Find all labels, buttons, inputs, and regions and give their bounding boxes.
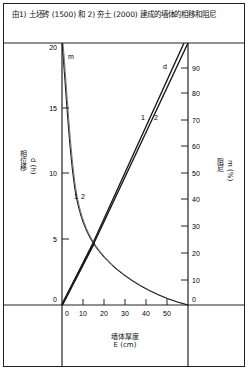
m-label: m xyxy=(68,53,74,60)
svg-text:10: 10 xyxy=(49,170,57,177)
svg-text:10: 10 xyxy=(79,310,87,317)
svg-text:10: 10 xyxy=(192,277,200,284)
chart-canvas: 20 15 10 5 0 90 80 70 60 50 40 30 20 10 … xyxy=(0,0,249,372)
m-curve-2-label: 2 xyxy=(81,193,85,200)
left-tick-labels: 20 15 10 5 0 xyxy=(49,44,57,303)
x-ticks xyxy=(83,299,167,305)
svg-text:80: 80 xyxy=(192,90,200,97)
svg-text:60: 60 xyxy=(192,143,200,150)
left-axis-title: 相位移 xyxy=(18,150,27,171)
svg-text:30: 30 xyxy=(192,223,200,230)
svg-text:30: 30 xyxy=(121,310,129,317)
svg-text:90: 90 xyxy=(192,65,200,72)
svg-text:0: 0 xyxy=(192,296,196,303)
d-line-1-label: 1 xyxy=(141,114,145,121)
svg-text:20: 20 xyxy=(100,310,108,317)
svg-text:20: 20 xyxy=(49,44,57,51)
right-axis-title: 阻尼 xyxy=(215,158,224,172)
svg-text:70: 70 xyxy=(192,117,200,124)
x-tick-labels: 0 10 20 30 40 50 xyxy=(65,310,171,317)
m-curve-1-label: 1 xyxy=(74,193,78,200)
d-line-2-label: 2 xyxy=(154,114,158,121)
left-axis-title-unit: d (h) xyxy=(28,158,37,175)
svg-text:50: 50 xyxy=(163,310,171,317)
left-axis-title-cn: 相位移 xyxy=(19,150,27,171)
svg-text:40: 40 xyxy=(142,310,150,317)
svg-text:0: 0 xyxy=(65,310,69,317)
right-axis-title-unit: m (%) xyxy=(225,160,234,181)
right-tick-labels: 90 80 70 60 50 40 30 20 10 0 xyxy=(192,65,200,303)
left-ticks xyxy=(62,108,69,239)
d-lines-overlap xyxy=(62,243,94,305)
svg-text:15: 15 xyxy=(49,105,57,112)
svg-text:20: 20 xyxy=(192,250,200,257)
svg-text:5: 5 xyxy=(53,236,57,243)
svg-text:40: 40 xyxy=(192,196,200,203)
svg-text:0: 0 xyxy=(53,296,57,303)
d-line-1 xyxy=(62,43,184,305)
svg-text:50: 50 xyxy=(192,170,200,177)
x-axis-title: 墙体厚度 xyxy=(95,331,155,341)
right-ticks xyxy=(181,68,188,280)
d-label: d xyxy=(163,63,167,70)
curve-annotations: m d 1 2 1 2 xyxy=(68,53,167,200)
right-axis-title-cn: 阻尼 xyxy=(216,158,224,172)
x-axis-unit: E (cm) xyxy=(95,341,155,349)
